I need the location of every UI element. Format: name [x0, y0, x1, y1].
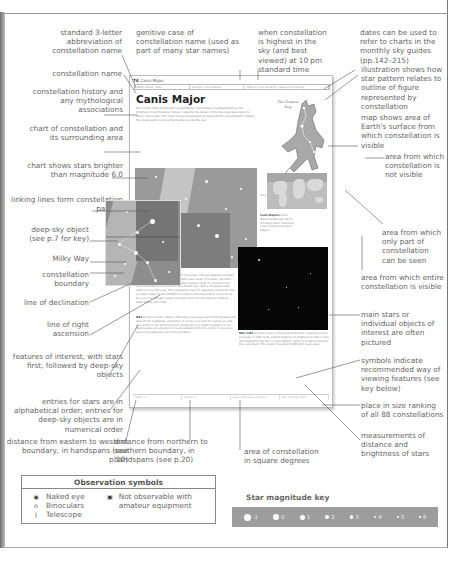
greater-dog-illustration [280, 100, 330, 180]
annotation-history: constellation history and any mythologic… [20, 87, 123, 115]
observation-symbols-title: Observation symbols [22, 478, 215, 487]
ngc2362-entry-text: An open cluster, small and condensed, re… [239, 332, 329, 346]
binoculars-label: Binoculars [46, 501, 84, 510]
annotation-abbreviation: standard 3-letter abbreviation of conste… [52, 28, 122, 56]
annotation-area: area of constellation in square degrees [244, 447, 324, 465]
annotation-magnitude: chart shows stars brighter than magnitud… [10, 161, 123, 179]
annotation-ascension: line of right ascension [20, 320, 89, 338]
visibility-world-map [267, 173, 327, 209]
observation-binoculars: ∩ Binoculars [32, 501, 84, 510]
annotation-entire-visible: area from which entire constellation is … [361, 273, 445, 291]
ngc2362-entry: NGC 2362 An open cluster, small and cond… [239, 332, 331, 368]
info-footer: Width: ½ Depth: ½ Area: 380 square degre… [133, 394, 329, 400]
star-dot-icon [397, 516, 399, 518]
footer-width: Width: ½ [133, 395, 182, 400]
top-divider [5, 13, 448, 14]
running-head: 74Canis Major [133, 78, 164, 83]
observation-symbols-divider [22, 488, 215, 489]
annotation-pictured: main stars or individual objects of inte… [361, 310, 445, 347]
magnitude-5: 5 [397, 514, 405, 520]
magnitude-3: 3 [350, 514, 359, 520]
annotation-highest: when constellation is highest in the sky… [258, 28, 330, 74]
binoculars-icon: ∩ [32, 501, 40, 510]
page-number: 74 [133, 78, 139, 83]
naked-eye-icon: ◉ [32, 492, 40, 501]
m41-entry: M41 An open cluster, about 2,300 light y… [136, 316, 236, 352]
annotation-viewing-symbols: symbols indicate recommended way of view… [361, 356, 445, 393]
footer-depth: Depth: ½ [182, 395, 231, 400]
star-dot-icon [374, 516, 377, 519]
magnitude-4: 4 [374, 514, 382, 520]
annotation-boundary: constellation boundary [20, 270, 89, 288]
annotation-declination: line of declination [10, 298, 89, 307]
info-abbreviation: Abbreviation: CMa [135, 85, 190, 89]
footer-area: Area: 380 square degrees [231, 395, 280, 400]
annotation-chart: chart of constellation and its surroundi… [20, 124, 123, 142]
observation-telescope: ⟩ Telescope [32, 510, 82, 519]
not-observable-label: Not observable with amateur equipment [119, 492, 213, 510]
magnitude-2: 2 [325, 514, 335, 520]
side-entry: Canis Majoris Canis Majoris bright star … [260, 214, 296, 236]
side-entry-head: Canis Majoris [260, 214, 280, 217]
info-genitive: Genitive: Canis Majoris [190, 85, 245, 89]
star-dot-icon [350, 515, 353, 518]
star-dot-icon [273, 514, 279, 520]
ngc2362-photograph [238, 247, 328, 330]
star-dot-icon [419, 516, 421, 518]
star-dot-icon [325, 515, 329, 519]
star-magnitude-key-title: Star magnitude key [246, 493, 329, 502]
annotation-genitive: genitive case of constellation name (use… [136, 28, 241, 56]
observation-not-observable: ▣ Not observable with amateur equipment [107, 492, 213, 510]
star-magnitude-key: -1 0 1 2 3 4 5 6 [232, 507, 438, 527]
observation-symbols-key: Observation symbols ◉ Naked eye ∩ Binocu… [21, 475, 216, 524]
annotation-milky-way: Milky Way [20, 254, 89, 263]
constellation-title: Canis Major [136, 93, 205, 105]
annotation-entries-order: entries for stars are in alphabetical or… [10, 397, 123, 434]
annotation-map: map shows area of Earth's surface from w… [361, 113, 445, 150]
annotation-depth-handspans: distance from northern to southern bound… [114, 437, 209, 465]
telescope-icon: ⟩ [32, 510, 40, 519]
annotation-dates: dates can be used to refer to charts in … [360, 28, 442, 65]
info-highest: Highest in sky at 10 pm: January to Febr… [244, 85, 329, 89]
annotation-illustration: illustration shows how star pattern rela… [361, 65, 445, 111]
annotation-part-visible: area from which only part of constellati… [382, 228, 444, 265]
not-observable-icon: ▣ [107, 492, 113, 510]
star-dot-icon [244, 514, 251, 521]
ngc2362-entry-head: NGC 2362 [239, 332, 253, 335]
page-edge-shadow [0, 12, 5, 548]
magnitude-1: 1 [300, 514, 311, 520]
star-dot-icon [300, 515, 305, 520]
magnitude-0: 0 [273, 514, 285, 520]
observation-naked-eye: ◉ Naked eye [32, 492, 85, 501]
annotation-width-handspans: distance from eastern to western boundar… [5, 437, 128, 465]
m41-entry-head: M41 [136, 316, 142, 319]
intro-text: One of the most prominent constellations… [136, 106, 256, 122]
annotation-features: features of interest, with stars first, … [10, 352, 123, 380]
linking-lines [106, 201, 181, 286]
info-bar: Abbreviation: CMa Genitive: Canis Majori… [134, 84, 330, 90]
m41-entry-text: An open cluster, about 2,300 light years… [136, 316, 236, 334]
chart-detail-inset [105, 200, 181, 286]
footer-size-ranking: Size ranking: 43rd [280, 395, 329, 400]
magnitude-6: 6 [419, 514, 426, 520]
annotation-size-ranking: place in size ranking of all 88 constell… [361, 401, 445, 419]
annotation-measurements: measurements of distance and brightness … [361, 431, 445, 459]
telescope-label: Telescope [46, 510, 82, 519]
naked-eye-label: Naked eye [46, 492, 85, 501]
running-head-title: Canis Major [141, 78, 164, 83]
annotation-not-visible: area from which constellation is not vis… [385, 152, 445, 180]
annotation-constellation-name: constellation name [20, 69, 122, 78]
magnitude-minus-1: -1 [244, 514, 258, 521]
annotation-deep-sky: deep-sky object (see p.7 for key) [20, 225, 89, 243]
